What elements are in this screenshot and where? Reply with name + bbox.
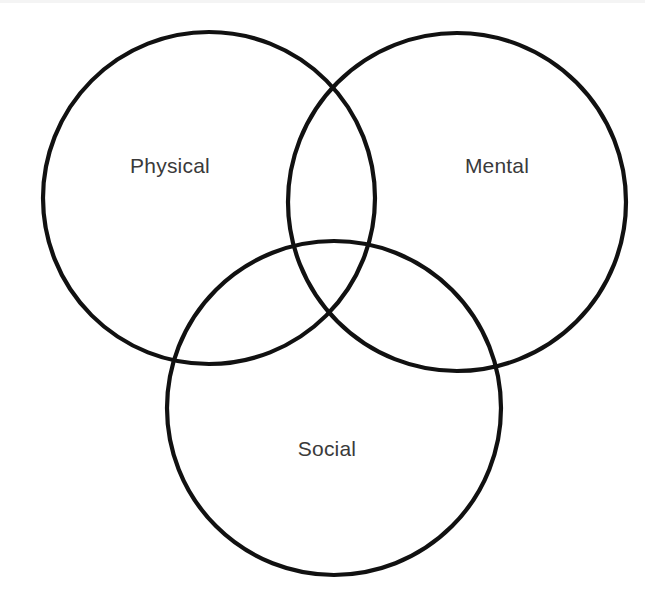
venn-diagram-canvas: Physical Mental Social (0, 0, 645, 608)
label-social: Social (298, 437, 356, 460)
label-physical: Physical (130, 154, 210, 177)
label-mental: Mental (465, 154, 529, 177)
circle-physical[interactable] (43, 32, 375, 364)
venn-diagram-svg: Physical Mental Social (0, 0, 645, 608)
circle-social[interactable] (167, 241, 501, 575)
circle-mental[interactable] (288, 33, 626, 371)
